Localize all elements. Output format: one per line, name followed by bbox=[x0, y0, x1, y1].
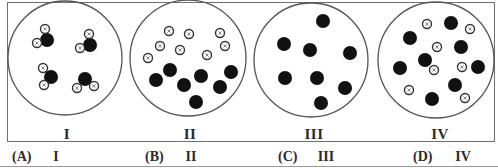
light-atom-icon bbox=[466, 25, 475, 34]
light-atom-icon bbox=[221, 42, 230, 51]
dark-atom-icon bbox=[177, 78, 191, 92]
light-atom-icon bbox=[458, 63, 467, 72]
dark-atom-icon bbox=[338, 81, 352, 95]
option-letter-d: (D) bbox=[413, 149, 432, 165]
light-atom-icon bbox=[40, 81, 49, 90]
dark-atom-icon bbox=[194, 69, 208, 83]
dark-atom-icon bbox=[425, 92, 439, 106]
light-atom-icon bbox=[176, 46, 185, 55]
option-letter-b: (B) bbox=[145, 149, 164, 165]
panel-label-4: IV bbox=[431, 126, 449, 143]
light-atom-icon bbox=[185, 30, 194, 39]
dark-atom-icon bbox=[314, 96, 328, 110]
particle-diagram-svg bbox=[0, 0, 498, 168]
light-atom-icon bbox=[433, 43, 442, 52]
dark-atom-icon bbox=[444, 16, 458, 30]
dark-atom-icon bbox=[310, 71, 324, 85]
light-atom-icon bbox=[73, 84, 82, 93]
light-atom-icon bbox=[216, 29, 225, 38]
dark-atom-icon bbox=[418, 53, 432, 67]
container-circle bbox=[254, 3, 368, 117]
light-atom-icon bbox=[33, 39, 42, 48]
light-atom-icon bbox=[144, 54, 153, 63]
option-value-c: III bbox=[318, 149, 334, 165]
option-value-a: I bbox=[53, 149, 58, 165]
light-atom-icon bbox=[461, 94, 470, 103]
dark-atom-icon bbox=[393, 61, 407, 75]
dark-atom-icon bbox=[343, 46, 357, 60]
dark-atom-icon bbox=[277, 37, 291, 51]
light-atom-icon bbox=[430, 66, 439, 75]
option-letter-a: (A) bbox=[12, 149, 31, 165]
dark-atom-icon bbox=[224, 65, 238, 79]
panel-iii bbox=[254, 3, 368, 117]
panel-label-3: III bbox=[304, 126, 323, 143]
light-atom-icon bbox=[405, 86, 414, 95]
container-circle bbox=[8, 1, 122, 115]
light-atom-icon bbox=[423, 20, 432, 29]
dark-atom-icon bbox=[278, 71, 292, 85]
dark-atom-icon bbox=[303, 43, 317, 57]
dark-atom-icon bbox=[189, 95, 203, 109]
light-atom-icon bbox=[39, 64, 48, 73]
light-atom-icon bbox=[203, 51, 212, 60]
light-atom-icon bbox=[156, 42, 165, 51]
light-atom-icon bbox=[85, 30, 94, 39]
light-atom-icon bbox=[90, 82, 99, 91]
dark-atom-icon bbox=[149, 73, 163, 87]
panel-label-1: I bbox=[64, 126, 70, 143]
dark-atom-icon bbox=[213, 80, 227, 94]
panel-label-2: II bbox=[184, 126, 197, 143]
light-atom-icon bbox=[165, 27, 174, 36]
dark-atom-icon bbox=[454, 40, 468, 54]
bottom-divider bbox=[0, 166, 498, 167]
atom-particle-diagram: I II III IV (A) I (B) II (C) III (D) IV bbox=[0, 0, 498, 168]
panel-i bbox=[8, 1, 122, 115]
option-value-d: IV bbox=[455, 149, 471, 165]
dark-atom-icon bbox=[163, 63, 177, 77]
dark-atom-icon bbox=[403, 31, 417, 45]
dark-atom-icon bbox=[471, 60, 485, 74]
panel-iv bbox=[378, 2, 494, 118]
panel-ii bbox=[130, 0, 246, 116]
light-atom-icon bbox=[76, 44, 85, 53]
dark-atom-icon bbox=[83, 38, 97, 52]
dark-atom-icon bbox=[40, 33, 54, 47]
option-value-b: II bbox=[186, 149, 197, 165]
light-atom-icon bbox=[41, 25, 50, 34]
dark-atom-icon bbox=[316, 14, 330, 28]
dark-atom-icon bbox=[448, 78, 462, 92]
option-letter-c: (C) bbox=[278, 149, 297, 165]
